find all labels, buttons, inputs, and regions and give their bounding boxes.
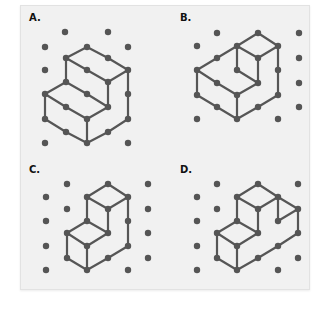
grid-dot: [194, 243, 200, 249]
edge: [108, 58, 128, 70]
grid-dot: [295, 255, 301, 261]
option-label: A.: [29, 12, 41, 23]
edge: [66, 82, 87, 94]
grid-dot: [255, 30, 261, 36]
edge: [217, 83, 237, 95]
grid-dot: [42, 116, 48, 122]
grid-dot: [255, 206, 261, 212]
grid-dot: [194, 267, 200, 273]
grid-dot: [145, 181, 151, 187]
grid-dot: [125, 67, 131, 73]
grid-dot: [63, 129, 69, 135]
grid-dot: [234, 67, 240, 73]
grid-dot: [275, 92, 281, 98]
edge: [217, 258, 237, 270]
edge: [237, 233, 258, 246]
grid-dot: [125, 91, 131, 97]
option-figure-d[interactable]: [194, 181, 301, 273]
grid-dot: [84, 194, 90, 200]
edge: [237, 258, 258, 270]
grid-dot: [84, 91, 90, 97]
edge: [45, 94, 66, 107]
grid-dot: [63, 55, 69, 61]
edge: [87, 184, 108, 197]
grid-dot: [105, 104, 111, 110]
edge: [237, 107, 258, 119]
grid-dot: [43, 194, 49, 200]
grid-dot: [125, 267, 131, 273]
grid-dot: [275, 194, 281, 200]
grid-dot: [275, 218, 281, 224]
edge: [108, 246, 128, 258]
grid-dot: [234, 116, 240, 122]
edge: [197, 95, 217, 107]
edge: [278, 197, 298, 209]
edge: [237, 221, 258, 233]
grid-dot: [42, 67, 48, 73]
edge: [217, 46, 237, 58]
grid-dot: [234, 218, 240, 224]
grid-dot: [214, 55, 220, 61]
edge: [66, 58, 87, 70]
grid-dot: [84, 116, 90, 122]
grid-dot: [234, 267, 240, 273]
option-figure-b[interactable]: [194, 30, 302, 122]
edge: [66, 132, 87, 143]
edge: [66, 107, 87, 119]
grid-dot: [84, 218, 90, 224]
grid-dot: [125, 194, 131, 200]
option-label: D.: [180, 164, 192, 175]
option-figure-a[interactable]: [42, 29, 131, 146]
grid-dot: [295, 181, 301, 187]
grid-dot: [214, 30, 220, 36]
edge: [278, 233, 298, 246]
grid-dot: [125, 218, 131, 224]
edge: [87, 221, 108, 233]
edge: [258, 95, 278, 107]
grid-dot: [194, 67, 200, 73]
grid-dot: [64, 206, 70, 212]
option-figure-c[interactable]: [43, 181, 151, 273]
grid-dot: [84, 140, 90, 146]
edge: [66, 47, 87, 58]
grid-dot: [63, 79, 69, 85]
edge: [67, 221, 87, 233]
edge: [87, 107, 108, 119]
grid-dot: [64, 230, 70, 236]
edge: [87, 132, 108, 143]
grid-dot: [214, 80, 220, 86]
grid-dot: [145, 206, 151, 212]
grid-dot: [234, 43, 240, 49]
edge: [45, 82, 66, 94]
grid-dot: [194, 194, 200, 200]
grid-dot: [296, 80, 302, 86]
grid-dot: [84, 267, 90, 273]
grid-dot: [125, 140, 131, 146]
grid-dot: [43, 243, 49, 249]
grid-dot: [105, 181, 111, 187]
grid-dot: [214, 181, 220, 187]
grid-dot: [295, 206, 301, 212]
edge: [237, 46, 258, 58]
edge: [197, 70, 217, 83]
grid-dot: [105, 129, 111, 135]
grid-dot: [296, 104, 302, 110]
grid-dot: [255, 55, 261, 61]
edge: [67, 233, 87, 246]
edge: [237, 197, 258, 209]
grid-dot: [42, 91, 48, 97]
grid-dot: [42, 44, 48, 50]
grid-dot: [296, 55, 302, 61]
grid-dot: [234, 92, 240, 98]
edge: [45, 119, 66, 132]
grid-dot: [194, 92, 200, 98]
grid-dot: [145, 230, 151, 236]
grid-dot: [105, 255, 111, 261]
grid-dot: [125, 116, 131, 122]
grid-dot: [84, 44, 90, 50]
option-label: B.: [180, 12, 191, 23]
grid-dot: [84, 243, 90, 249]
grid-dot: [105, 29, 111, 35]
edge: [237, 83, 258, 95]
edge: [197, 58, 217, 70]
